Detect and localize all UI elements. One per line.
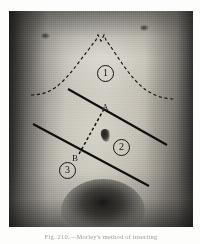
figure-caption: Fig. 210.—Morley's method of inserting: [9, 233, 193, 241]
zone-marker-2: 2: [113, 139, 130, 156]
annotation-overlay: [9, 11, 193, 227]
point-label-a: A: [102, 103, 109, 112]
upper-oblique-line: [68, 89, 167, 145]
zone-marker-3: 3: [59, 162, 76, 179]
zone-marker-1: 1: [97, 65, 114, 82]
point-label-b: B: [72, 154, 78, 163]
figure-page: A B 1 2 3 Fig. 210.—Morley's method of i…: [0, 0, 200, 244]
figure-photograph: A B 1 2 3: [9, 11, 193, 227]
ab-connector-line: [79, 109, 104, 154]
